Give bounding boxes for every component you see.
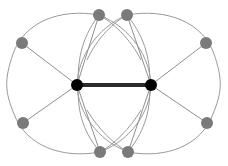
arc-cross-upper-right xyxy=(87,15,127,60)
leaf-node-right-bottom-outer xyxy=(201,117,213,129)
graph-canvas xyxy=(0,0,228,166)
spoke-hub-left-to-leaf-left-top-outer xyxy=(22,43,77,85)
leaf-node-right-top-outer xyxy=(200,37,212,49)
hub-node-left xyxy=(71,79,83,91)
spoke-hub-left-to-leaf-left-bottom-inner xyxy=(77,85,100,152)
leaf-node-left-top-outer xyxy=(16,37,28,49)
arc-left-hub-lens-lower xyxy=(77,85,128,152)
leaf-node-right-bottom-inner xyxy=(122,146,134,158)
spoke-hub-right-to-leaf-right-bottom-outer xyxy=(151,85,207,123)
arc-left-hub-lens-upper xyxy=(77,15,127,85)
spoke-hub-right-to-leaf-right-bottom-inner xyxy=(128,85,151,152)
spoke-hub-left-to-leaf-left-top-inner xyxy=(77,15,99,85)
hub-node-right xyxy=(145,79,157,91)
arc-right-hub-lens-upper xyxy=(99,15,151,85)
leaf-node-left-bottom-inner xyxy=(94,146,106,158)
leaf-node-right-top-inner xyxy=(121,9,133,21)
leaf-node-left-bottom-outer xyxy=(17,117,29,129)
leaf-node-left-top-inner xyxy=(93,9,105,21)
spoke-hub-right-to-leaf-right-top-outer xyxy=(151,43,206,85)
spoke-hub-right-to-leaf-right-top-inner xyxy=(127,15,151,85)
spoke-hub-left-to-leaf-left-bottom-outer xyxy=(23,85,77,123)
arc-right-hub-lens-lower xyxy=(100,85,151,152)
graph-figure xyxy=(0,0,228,166)
